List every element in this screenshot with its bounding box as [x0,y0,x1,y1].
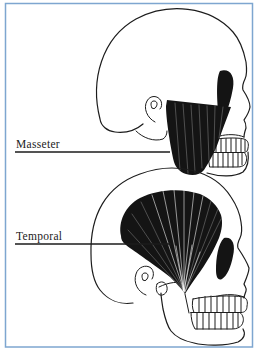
temporal-skull-illustration [91,168,249,345]
ear-bottom [135,266,153,295]
masseter-skull-illustration [97,9,250,176]
upper-teeth-bottom [192,296,247,313]
jaw-notch-top [136,131,167,140]
masseter-muscle-shape [166,100,231,175]
masseter-annotation: Masseter [15,138,170,152]
ramus-front-bottom [185,294,189,313]
ear-top [145,97,161,123]
orbit-bottom [216,238,234,280]
temporal-label: Temporal [16,230,62,243]
figure-canvas: Masseter Temporal [0,0,265,359]
lower-teeth-top [208,153,247,168]
anatomy-diagram: Masseter Temporal [0,0,265,359]
maxilla-top [220,135,244,137]
masseter-label: Masseter [16,138,60,150]
lower-teeth-bottom [191,313,243,330]
